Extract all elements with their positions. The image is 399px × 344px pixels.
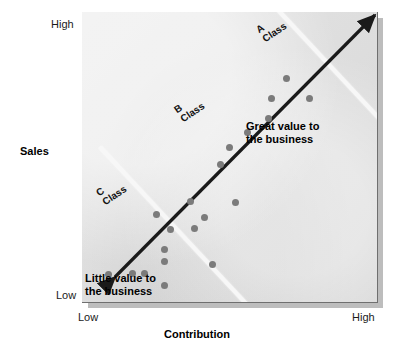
data-point <box>201 214 208 221</box>
y-axis-high-label: High <box>51 18 74 30</box>
x-axis-high-label: High <box>352 311 375 323</box>
data-point <box>161 282 168 289</box>
trend-line <box>82 12 377 302</box>
data-point <box>217 161 224 168</box>
data-point <box>209 261 216 268</box>
data-point <box>268 95 275 102</box>
y-axis-title: Sales <box>20 145 49 157</box>
little-value-line2: the business <box>85 285 152 297</box>
data-point <box>191 225 198 232</box>
data-point <box>283 75 290 82</box>
data-point <box>161 246 168 253</box>
little-value-line1: Little value to <box>85 272 156 284</box>
great-value-line1: Great value to <box>246 120 319 132</box>
y-axis-low-label: Low <box>56 289 76 301</box>
data-point <box>232 199 239 206</box>
data-point <box>161 258 168 265</box>
plot-area: A Class B Class C Class Great value to t… <box>82 12 378 303</box>
x-axis-title: Contribution <box>164 328 230 340</box>
great-value-line2: the business <box>246 133 313 145</box>
data-point <box>153 211 160 218</box>
data-point <box>187 198 194 205</box>
data-point <box>167 226 174 233</box>
x-axis-low-label: Low <box>78 311 98 323</box>
data-point <box>226 144 233 151</box>
chart-root: A Class B Class C Class Great value to t… <box>0 0 399 344</box>
data-point <box>306 95 313 102</box>
annotation-little-value: Little value to the business <box>85 272 156 298</box>
annotation-great-value: Great value to the business <box>246 120 319 146</box>
